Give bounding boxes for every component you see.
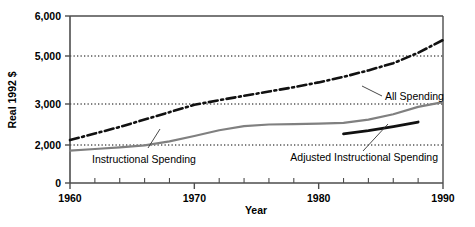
x-tick-label-1990: 1990 (431, 192, 455, 204)
chart-figure: 02,0003,0005,0006,000 1960197019801990 A… (0, 0, 475, 227)
y-tick-label-6000: 6,000 (35, 10, 61, 22)
x-tick-label-1970: 1970 (183, 192, 207, 204)
x-tick-label-1960: 1960 (58, 192, 82, 204)
y-tick-label-2000: 2,000 (35, 139, 61, 151)
label-all-spending: All Spending (385, 90, 444, 102)
line-chart: 02,0003,0005,0006,000 1960197019801990 A… (0, 0, 475, 227)
x-axis-title: Year (245, 204, 267, 216)
y-tick-label-3000: 3,000 (35, 98, 61, 110)
x-tick-label-1980: 1980 (307, 192, 331, 204)
y-tick-label-0: 0 (55, 177, 61, 189)
label-instructional-spending: Instructional Spending (92, 153, 196, 165)
y-axis-title: Real 1992 $ (6, 71, 18, 128)
label-adjusted-instructional-spending: Adjusted Instructional Spending (290, 151, 438, 163)
y-tick-label-5000: 5,000 (35, 50, 61, 62)
